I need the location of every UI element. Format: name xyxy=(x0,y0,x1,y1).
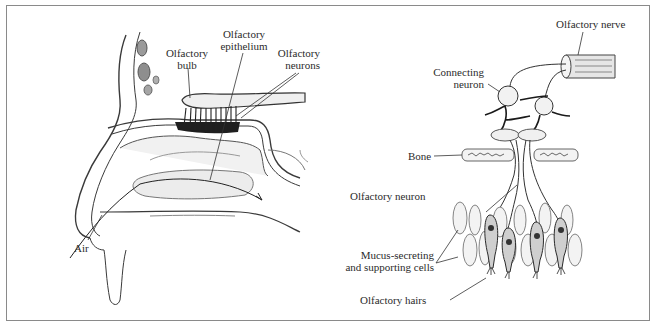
label-olfactory-neuron: Olfactory neuron xyxy=(350,190,425,202)
label-connecting-neuron: Connecting neuron xyxy=(420,66,484,90)
label-olfactory-neurons-line1: Olfactory xyxy=(268,47,320,59)
label-olfactory-nerve: Olfactory nerve xyxy=(556,18,625,30)
label-olfactory-epithelium-line2: epithelium xyxy=(215,40,273,52)
label-olfactory-hairs: Olfactory hairs xyxy=(360,294,426,306)
label-olfactory-neurons: Olfactory neurons xyxy=(268,47,320,71)
label-connecting-neuron-line1: Connecting xyxy=(420,66,484,78)
label-mucus-cells-line1: Mucus-secreting xyxy=(330,249,434,261)
label-connecting-neuron-line2: neuron xyxy=(420,78,484,90)
nasal-cavity-drawing xyxy=(70,32,308,305)
label-olfactory-epithelium: Olfactory epithelium xyxy=(215,28,273,52)
label-mucus-cells-line2: and supporting cells xyxy=(330,261,434,273)
label-olfactory-bulb-line1: Olfactory xyxy=(162,47,212,59)
olfactory-illustration xyxy=(0,0,655,327)
label-bone: Bone xyxy=(408,150,431,162)
label-olfactory-epithelium-line1: Olfactory xyxy=(215,28,273,40)
label-air: Air xyxy=(74,242,89,254)
label-mucus-supporting-cells: Mucus-secreting and supporting cells xyxy=(330,249,434,273)
label-olfactory-neurons-line2: neurons xyxy=(268,59,320,71)
label-olfactory-bulb-line2: bulb xyxy=(162,59,212,71)
label-olfactory-bulb: Olfactory bulb xyxy=(162,47,212,71)
